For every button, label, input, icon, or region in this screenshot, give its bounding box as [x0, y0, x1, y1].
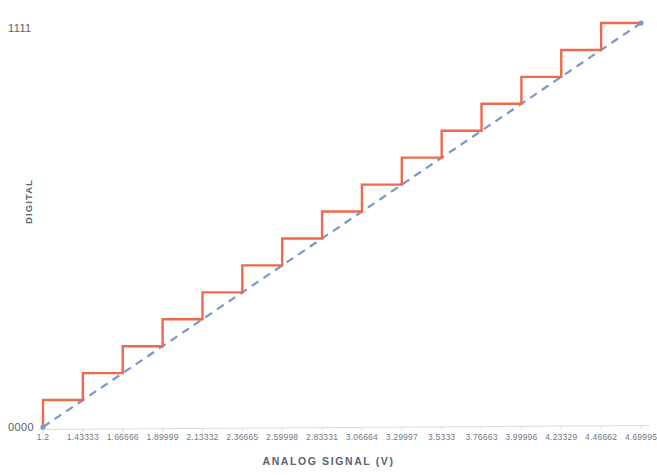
x-axis-tick-label: 2.36665: [226, 432, 258, 442]
x-axis-tick-label: 2.59998: [266, 432, 298, 442]
x-axis-tick-label: 1.2: [37, 432, 49, 442]
plot-area: [0, 0, 657, 475]
x-axis-tick-label: 3.06664: [346, 432, 378, 442]
x-axis-tick-label: 2.83331: [306, 432, 338, 442]
x-axis-tick-label: 3.29997: [386, 432, 418, 442]
x-axis-tick-label: 3.76663: [465, 432, 497, 442]
x-axis-title: ANALOG SIGNAL (V): [0, 455, 657, 467]
x-axis-tick-label: 2.13332: [186, 432, 218, 442]
x-axis-tick-label: 4.23329: [545, 432, 577, 442]
x-axis-tick-label: 3.99996: [505, 432, 537, 442]
x-axis-tick-label: 1.66666: [107, 432, 139, 442]
x-axis-tick-label-row: 1.21.433331.666661.899992.133322.366652.…: [0, 432, 657, 448]
x-axis-tick-label: 1.43333: [67, 432, 99, 442]
adc-transfer-chart: 1111 0000 DIGITAL 1.21.433331.666661.899…: [0, 0, 657, 475]
x-axis-line: [38, 426, 650, 430]
quantized-step-line: [43, 23, 641, 427]
x-axis-tick-label: 4.46662: [585, 432, 617, 442]
ideal-linear-reference-line: [43, 23, 641, 427]
x-axis-tick-label: 3.5333: [428, 432, 455, 442]
x-axis-tick-label: 4.69995: [625, 432, 657, 442]
x-axis-tick-label: 1.89999: [147, 432, 179, 442]
